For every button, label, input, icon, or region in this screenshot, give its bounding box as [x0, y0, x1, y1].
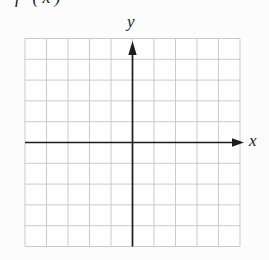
worksheet-figure: f (x) y x [0, 0, 269, 260]
y-axis-label: y [127, 13, 135, 30]
coordinate-grid [0, 0, 269, 260]
x-axis-label: x [249, 132, 257, 149]
